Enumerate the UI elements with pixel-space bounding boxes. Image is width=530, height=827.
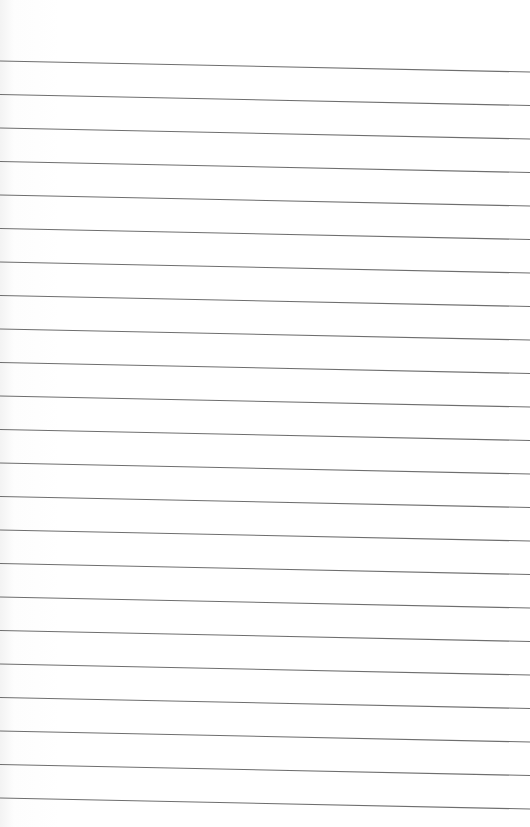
ruled-line (0, 329, 530, 340)
ruled-line (0, 664, 530, 675)
ruled-line (0, 195, 530, 206)
ruled-line (0, 497, 530, 508)
ruled-line (0, 731, 530, 742)
ruled-line (0, 162, 530, 173)
ruled-line (0, 95, 530, 106)
lined-paper-page (0, 0, 530, 827)
ruled-line (0, 430, 530, 441)
ruled-line (0, 296, 530, 307)
ruled-line (0, 396, 530, 407)
ruled-line (0, 530, 530, 541)
ruled-line (0, 128, 530, 139)
ruled-line (0, 363, 530, 374)
ruled-line (0, 765, 530, 776)
ruled-lines (0, 0, 530, 827)
ruled-line (0, 597, 530, 608)
ruled-line (0, 698, 530, 709)
ruled-line (0, 564, 530, 575)
ruled-line (0, 229, 530, 240)
ruled-line (0, 61, 530, 72)
ruled-line (0, 631, 530, 642)
ruled-line (0, 262, 530, 273)
ruled-line (0, 798, 530, 809)
ruled-line (0, 463, 530, 474)
